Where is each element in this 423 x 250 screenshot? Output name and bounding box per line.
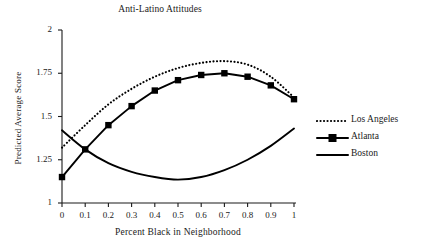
legend-label: Los Angeles xyxy=(351,114,398,124)
x-axis-tick-label: 0.4 xyxy=(143,210,167,220)
x-axis-ticks xyxy=(62,203,294,207)
x-axis-tick-label: 0.6 xyxy=(189,210,213,220)
y-axis-tick-label: 1.25 xyxy=(22,154,52,164)
legend-item-boston[interactable]: Boston xyxy=(316,144,398,161)
x-axis-tick-label: 0.2 xyxy=(96,210,120,220)
axes xyxy=(62,30,296,203)
data-point-marker xyxy=(59,174,65,180)
legend-key-icon xyxy=(316,130,349,142)
series-line xyxy=(62,73,294,177)
data-point-marker xyxy=(244,74,250,80)
legend-label: Atlanta xyxy=(351,131,379,141)
series-line xyxy=(62,61,294,148)
x-axis-tick-label: 0.7 xyxy=(212,210,236,220)
y-axis-tick-label: 2 xyxy=(22,24,52,34)
x-axis-tick-label: 0.8 xyxy=(236,210,260,220)
data-series-group xyxy=(59,61,297,180)
series-atlanta xyxy=(59,70,297,180)
legend-item-atlanta[interactable]: Atlanta xyxy=(316,127,398,144)
data-point-marker xyxy=(221,70,227,76)
y-axis-tick-label: 1.75 xyxy=(22,67,52,77)
x-axis-tick-label: 0.1 xyxy=(73,210,97,220)
x-axis-tick-label: 0 xyxy=(50,210,74,220)
data-point-marker xyxy=(152,87,158,93)
series-los-angeles xyxy=(62,61,294,148)
x-axis-tick-label: 1 xyxy=(282,210,306,220)
data-point-marker xyxy=(268,82,274,88)
chart-legend: Los AngelesAtlantaBoston xyxy=(316,110,398,161)
data-point-marker xyxy=(291,96,297,102)
chart-figure: Anti-Latino Attitudes Predicted Average … xyxy=(0,0,423,250)
legend-label: Boston xyxy=(351,148,378,158)
y-axis-tick-label: 1 xyxy=(22,197,52,207)
data-point-marker xyxy=(175,77,181,83)
data-point-marker xyxy=(105,122,111,128)
x-axis-tick-label: 0.5 xyxy=(166,210,190,220)
legend-key-icon xyxy=(316,113,349,125)
x-axis-tick-label: 0.3 xyxy=(120,210,144,220)
data-point-marker xyxy=(198,72,204,78)
data-point-marker xyxy=(128,103,134,109)
legend-key-icon xyxy=(316,147,349,159)
x-axis-tick-label: 0.9 xyxy=(259,210,283,220)
legend-item-los-angeles[interactable]: Los Angeles xyxy=(316,110,398,127)
y-axis-tick-label: 1.5 xyxy=(22,111,52,121)
